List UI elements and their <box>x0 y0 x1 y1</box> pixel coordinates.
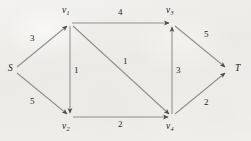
graph-drawing <box>0 0 251 141</box>
edge-weight-v1-v2: 1 <box>74 66 79 75</box>
edge-v4-T <box>175 73 225 114</box>
edge-weight-v4-T: 2 <box>204 98 209 107</box>
edge-weight-v1-v3: 4 <box>118 8 123 17</box>
edge-S-v2 <box>17 73 67 114</box>
node-label-v4: v4 <box>166 122 174 132</box>
edge-v1-v4 <box>73 26 169 114</box>
edge-weight-v4-v3: 3 <box>176 66 181 75</box>
node-label-v3: v3 <box>166 6 174 16</box>
edge-weight-v1-v4: 1 <box>123 57 128 66</box>
figure-canvas: S v1 v3 v2 v4 T 3 5 4 1 1 2 3 5 2 <box>0 0 251 141</box>
node-label-v2: v2 <box>62 122 70 132</box>
node-label-T: T <box>235 64 240 74</box>
node-label-v1: v1 <box>62 6 70 16</box>
edge-weight-S-v2: 5 <box>30 97 35 106</box>
edge-weight-S-v1: 3 <box>30 34 35 43</box>
edge-weight-v2-v4: 2 <box>118 120 123 129</box>
edge-v3-T <box>175 26 225 67</box>
edge-S-v1 <box>17 26 67 67</box>
edge-weight-v3-T: 5 <box>204 30 209 39</box>
node-label-S: S <box>8 64 13 74</box>
